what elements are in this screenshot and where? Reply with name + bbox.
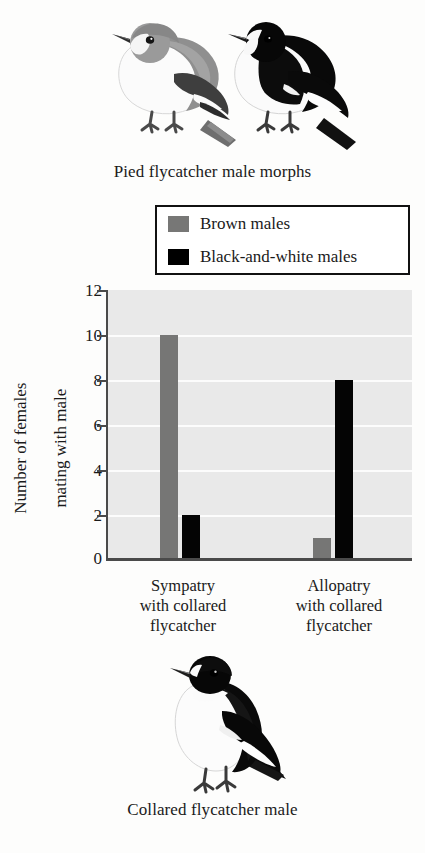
bottom-illustration-caption: Collared flycatcher male [0,800,425,820]
x-axis-labels: Sympatry with collared flycatcher Allopa… [108,576,412,638]
gridline-4 [108,470,412,472]
x-axis-label-sympatry-line2: with collared [108,596,258,616]
bar-allopatry-black-and-white-males [335,380,353,560]
y-axis-ticks: 12 10 8 6 4 2 0 [58,288,102,560]
x-axis-line [106,558,412,561]
pied-flycatcher-male-morphs-illustration [108,8,368,158]
x-axis-label-sympatry: Sympatry with collared flycatcher [108,576,258,635]
bar-allopatry-brown-males [313,538,331,561]
bar-sympatry-black-and-white-males [182,515,200,560]
legend-item-black-and-white-males: Black-and-white males [157,240,408,273]
legend-label-black-and-white-males: Black-and-white males [200,248,357,265]
y-tick-label-0: 0 [68,550,102,567]
brown-morph-bird [112,23,236,147]
legend-item-brown-males: Brown males [157,207,408,240]
gridline-2 [108,515,412,517]
x-axis-label-allopatry-line1: Allopatry [264,576,414,596]
x-axis-label-allopatry: Allopatry with collared flycatcher [264,576,414,635]
x-axis-label-allopatry-line2: with collared [264,596,414,616]
gridline-6 [108,425,412,427]
gridline-10 [108,335,412,337]
y-axis-title-line1: Number of females [11,323,31,573]
x-axis-label-allopatry-line3: flycatcher [264,616,414,636]
legend-swatch-black-and-white-males-icon [168,249,189,265]
gridline-8 [108,380,412,382]
chart-legend: Brown males Black-and-white males [155,205,410,275]
plot-area [108,290,412,560]
legend-label-brown-males: Brown males [200,215,290,232]
legend-swatch-brown-males-icon [168,216,189,232]
x-axis-label-sympatry-line3: flycatcher [108,616,258,636]
y-axis-line [106,290,108,560]
top-illustration-caption: Pied flycatcher male morphs [0,162,425,182]
bar-sympatry-brown-males [160,335,178,560]
bar-chart: Number of females mating with male 12 10… [0,288,425,573]
black-and-white-morph-bird [228,22,356,150]
figure-root: Pied flycatcher male morphs Brown males … [0,0,425,853]
x-axis-label-sympatry-line1: Sympatry [108,576,258,596]
collared-flycatcher-male-illustration [150,645,290,795]
